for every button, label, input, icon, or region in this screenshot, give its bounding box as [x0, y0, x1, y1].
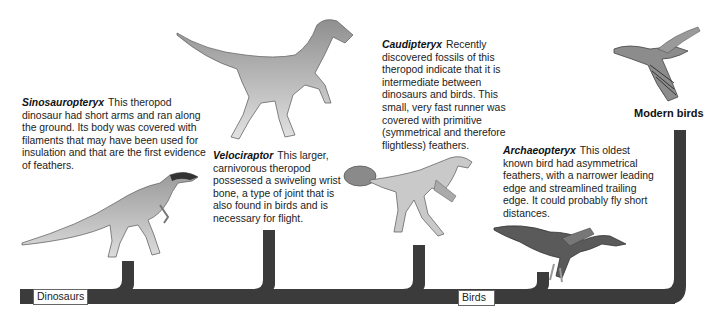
- taxon-name: Caudipteryx: [382, 39, 442, 50]
- taxon-description: Recently discovered fossils of this ther…: [382, 39, 506, 151]
- velociraptor-illustration: [175, 15, 375, 145]
- branch-velociraptor: [246, 230, 275, 293]
- dinosaurs-label: Dinosaurs: [33, 289, 88, 305]
- caption-archaeopteryx: ArchaeopteryxThis oldest known bird had …: [503, 145, 655, 221]
- taxon-name: Archaeopteryx: [503, 145, 576, 156]
- taxon-description: This oldest known bird had asymmetrical …: [503, 145, 654, 219]
- branch-sinosauropteryx: [105, 261, 134, 293]
- caption-velociraptor: VelociraptorThis larger, carnivorous the…: [213, 150, 341, 226]
- birds-label: Birds: [458, 290, 495, 306]
- branch-modern-birds: [650, 130, 686, 304]
- caption-caudipteryx: CaudipteryxRecently discovered fossils o…: [382, 39, 518, 152]
- branch-caudipteryx: [396, 245, 425, 293]
- sinosauropteryx-illustration: [20, 165, 205, 265]
- taxon-name: Sinosauropteryx: [22, 97, 104, 108]
- taxon-name: Velociraptor: [213, 150, 273, 161]
- archaeopteryx-illustration: [490, 218, 630, 288]
- modern-bird-illustration: [610, 25, 710, 110]
- taxon-description: This larger, carnivorous theropod posses…: [213, 150, 341, 224]
- caudipteryx-illustration: [340, 152, 480, 247]
